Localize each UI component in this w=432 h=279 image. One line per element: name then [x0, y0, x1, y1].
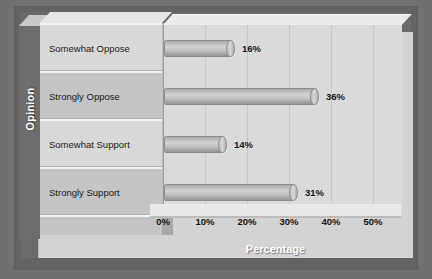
- bar-value-label: 16%: [242, 43, 261, 54]
- category-row: Somewhat Support: [40, 119, 162, 167]
- bar-value-label: 36%: [326, 91, 345, 102]
- y-axis-title: Opinion: [24, 64, 36, 154]
- plot-floor: [150, 204, 401, 216]
- category-row: Somewhat Oppose: [40, 23, 162, 71]
- bar-value-label: 31%: [305, 187, 324, 198]
- bar-value-label: 14%: [234, 139, 253, 150]
- bar-somewhat-support: [164, 136, 223, 153]
- bar-strongly-support: [164, 184, 294, 201]
- bar-strongly-oppose: [164, 88, 315, 105]
- bar-end-cap: [289, 184, 298, 201]
- category-column-footer: [40, 215, 162, 235]
- category-row: Strongly Support: [40, 167, 162, 215]
- bar-end-cap: [226, 40, 235, 57]
- category-label: Somewhat Oppose: [49, 42, 130, 53]
- x-axis-title: Percentage: [150, 243, 401, 255]
- x-axis-tick: 20%: [237, 216, 256, 227]
- x-axis-tick: 10%: [195, 216, 214, 227]
- plot-background: 16% 36% 14% 31%: [162, 25, 402, 215]
- chart-figure: Opinion Somewhat Oppose Strongly Oppose …: [0, 0, 432, 279]
- x-axis-tick: 50%: [363, 216, 382, 227]
- category-label-column: Somewhat Oppose Strongly Oppose Somewhat…: [40, 23, 162, 215]
- x-axis-tick: 40%: [321, 216, 340, 227]
- bar-somewhat-oppose: [164, 40, 231, 57]
- category-label: Strongly Oppose: [49, 90, 120, 101]
- gridline: [331, 25, 332, 215]
- plot-area: 16% 36% 14% 31%: [150, 14, 401, 215]
- bar-end-cap: [310, 88, 319, 105]
- gridline: [373, 25, 374, 215]
- x-axis-tick: 30%: [279, 216, 298, 227]
- x-axis-tick: 0%: [156, 216, 170, 227]
- category-label: Somewhat Support: [49, 138, 130, 149]
- x-axis-tick-labels: 0% 10% 20% 30% 40% 50%: [150, 216, 401, 232]
- bar-end-cap: [218, 136, 227, 153]
- category-label: Strongly Support: [49, 186, 120, 197]
- category-row: Strongly Oppose: [40, 71, 162, 119]
- y-axis-title-band: Opinion: [19, 24, 40, 239]
